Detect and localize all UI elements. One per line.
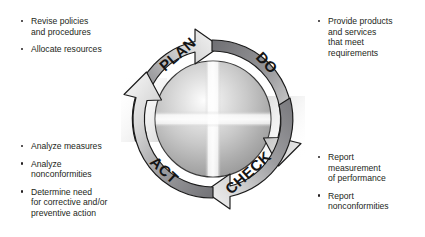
list-item: Report measurement of performance — [318, 152, 422, 184]
list-item: Allocate resources — [21, 44, 136, 55]
bullet-icon — [21, 20, 23, 22]
list-item: Revise policies and procedures — [21, 16, 136, 37]
bullet-icon — [21, 162, 23, 164]
bullet-icon — [318, 194, 320, 196]
bullet-icon — [21, 48, 23, 50]
pdca-cycle-graphic: PLAN DO CHECK ACT — [121, 0, 305, 237]
pdca-diagram-page: Revise policies and procedures Allocate … — [0, 0, 425, 237]
text-block-check: Report measurement of performance Report… — [318, 152, 422, 212]
text-block-do: Provide products and services that meet … — [318, 16, 422, 58]
text-block-plan: Revise policies and procedures Allocate … — [21, 16, 136, 55]
bullet-icon — [318, 156, 320, 158]
list-item: Provide products and services that meet … — [318, 16, 422, 58]
list-item: Report nonconformities — [318, 191, 422, 212]
list-item-label: Provide products and services that meet … — [328, 16, 422, 58]
bullet-icon — [21, 145, 23, 147]
list-item-label: Report measurement of performance — [328, 152, 422, 184]
bullet-icon — [21, 190, 23, 192]
bullet-icon — [318, 20, 320, 22]
list-item-label: Report nonconformities — [328, 191, 422, 212]
